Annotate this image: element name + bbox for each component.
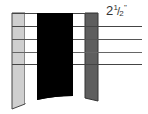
measurement-label: 21/2" — [106, 3, 127, 18]
white-column-right — [73, 13, 85, 96]
label-unit: " — [124, 3, 127, 12]
black-band-overlay — [37, 13, 73, 100]
light-strip — [12, 13, 25, 109]
